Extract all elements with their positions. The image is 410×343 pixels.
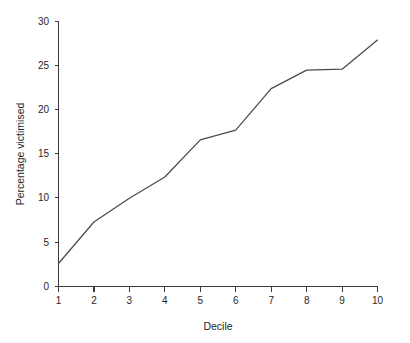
x-tick-label-2: 2 <box>91 295 97 306</box>
y-tick-label-25: 25 <box>38 60 50 71</box>
y-tick-label-15: 15 <box>38 148 50 159</box>
data-series-line <box>59 40 378 263</box>
y-axis-title: Percentage victimised <box>14 102 26 205</box>
x-tick-label-1: 1 <box>56 295 62 306</box>
y-tick-label-30: 30 <box>38 16 50 27</box>
x-tick-label-6: 6 <box>233 295 239 306</box>
x-tick-label-10: 10 <box>372 295 384 306</box>
y-tick-label-0: 0 <box>43 281 49 292</box>
x-axis-ticks <box>59 287 378 292</box>
y-axis-ticks <box>55 22 59 287</box>
x-tick-label-8: 8 <box>304 295 310 306</box>
x-tick-label-7: 7 <box>268 295 274 306</box>
y-tick-label-20: 20 <box>38 104 50 115</box>
y-tick-label-10: 10 <box>38 192 50 203</box>
x-tick-label-5: 5 <box>198 295 204 306</box>
chart-figure: 30 25 20 15 10 5 0 1 2 3 4 5 6 7 8 9 10 <box>0 0 410 343</box>
x-tick-label-9: 9 <box>339 295 345 306</box>
x-tick-label-4: 4 <box>162 295 168 306</box>
chart-plot-area: 30 25 20 15 10 5 0 1 2 3 4 5 6 7 8 9 10 <box>0 0 410 343</box>
x-axis-title: Decile <box>203 320 232 332</box>
y-tick-label-5: 5 <box>43 237 49 248</box>
x-tick-label-3: 3 <box>127 295 133 306</box>
